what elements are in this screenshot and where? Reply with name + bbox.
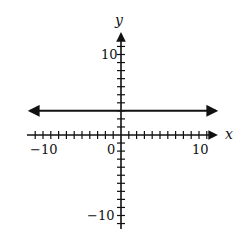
x-tick-label-0: 0 [107, 142, 115, 157]
x-tick-label-10: 10 [192, 142, 209, 157]
y-tick-label-neg10: −10 [87, 208, 114, 223]
x-tick-label-neg10: −10 [30, 142, 57, 157]
x-axis-label: x [225, 126, 233, 142]
y-axis-label: y [114, 12, 124, 28]
y-tick-label-10: 10 [101, 47, 118, 62]
coordinate-plane: x y −10 0 10 10 −10 [0, 0, 247, 234]
